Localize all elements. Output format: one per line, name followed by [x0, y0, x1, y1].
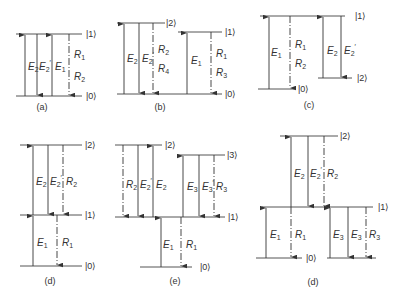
transition-label: E2	[156, 179, 167, 191]
state-ket-label: |1⟩	[225, 27, 236, 37]
transition-label: E1	[37, 237, 48, 249]
state-ket-label: |2⟩	[166, 18, 177, 28]
panel-c: |1⟩|2⟩|0⟩E1R1R2E2E2′(c)	[258, 11, 368, 110]
state-ket-label: |0⟩	[298, 84, 309, 94]
transition-label: E2	[327, 45, 338, 57]
panel-caption: (b)	[155, 102, 166, 112]
panel-d: |2⟩|1⟩|0⟩E2E2′R2E1R1(d)	[20, 140, 96, 286]
energy-level-figure: |1⟩|0⟩E2E2′E1R1R2(a)|2⟩|1⟩|0⟩E2E2′R2R4E1…	[0, 0, 403, 297]
transition-label: E1	[191, 55, 202, 67]
panel-caption: (a)	[37, 102, 48, 112]
transition-label: R1	[295, 39, 306, 51]
transition-label: E2′	[140, 177, 153, 191]
transition-label: R1	[186, 239, 197, 251]
state-ket-label: |1⟩	[85, 210, 96, 220]
panel-caption: (c)	[304, 100, 315, 110]
state-ket-label: |0⟩	[306, 253, 317, 263]
transition-label: R3	[369, 229, 380, 241]
state-ket-label: |0⟩	[200, 262, 211, 272]
panel-f: |2⟩|1⟩|0⟩E2E2′R2E1R1E3E3R3(d)	[256, 131, 389, 287]
transition-label: E2′	[50, 174, 63, 188]
state-ket-label: |0⟩	[85, 261, 96, 271]
transition-label: R3	[216, 67, 227, 79]
transition-label: R3	[216, 181, 227, 193]
transition-label: E3	[333, 229, 344, 241]
state-ket-label: |1⟩	[228, 212, 239, 222]
state-ket-label: |2⟩	[340, 131, 351, 141]
state-ket-label: |1⟩	[86, 29, 97, 39]
transition-label: E2	[294, 168, 305, 180]
transition-label: E2′	[344, 43, 357, 57]
transition-label: E2	[36, 176, 47, 188]
panel-e: |2⟩|3⟩|1⟩|0⟩R2E2′E2E3E3′R3E1R1(e)	[115, 140, 239, 286]
panel-b: |2⟩|1⟩|0⟩E2E2′R2R4E1R1R3(b)	[117, 18, 236, 112]
transition-label: R2	[74, 71, 85, 83]
transition-label: E3	[187, 181, 198, 193]
panel-caption: (d)	[45, 276, 56, 286]
transition-label: R2	[295, 58, 306, 70]
energy-level-diagram-canvas: |1⟩|0⟩E2E2′E1R1R2(a)|2⟩|1⟩|0⟩E2E2′R2R4E1…	[0, 0, 403, 297]
state-ket-label: |1⟩	[378, 202, 389, 212]
transition-label: R2	[158, 44, 169, 56]
transition-label: E3	[351, 229, 362, 241]
transition-label: E3′	[202, 179, 215, 193]
transition-label: R2	[66, 176, 77, 188]
state-ket-label: |0⟩	[225, 89, 236, 99]
transition-label: E1	[271, 47, 282, 59]
transition-label: E1	[270, 229, 281, 241]
transition-label: R4	[158, 63, 169, 75]
state-ket-label: |2⟩	[85, 140, 96, 150]
transition-label: E2	[127, 53, 138, 65]
panel-caption: (d)	[308, 277, 319, 287]
transition-label: R1	[74, 49, 85, 61]
state-ket-label: |3⟩	[227, 150, 238, 160]
transition-label: E2′	[39, 59, 52, 73]
transition-label: E1	[55, 61, 66, 73]
panel-caption: (e)	[170, 276, 181, 286]
transition-label: R2	[126, 179, 137, 191]
state-ket-label: |0⟩	[86, 91, 97, 101]
transition-label: R1	[295, 229, 306, 241]
state-ket-label: |2⟩	[357, 73, 368, 83]
state-ket-label: |1⟩	[355, 11, 366, 21]
panel-a: |1⟩|0⟩E2E2′E1R1R2(a)	[16, 29, 97, 112]
transition-label: R1	[216, 48, 227, 60]
state-ket-label: |2⟩	[165, 140, 176, 150]
transition-label: R1	[62, 237, 73, 249]
transition-label: R2	[327, 168, 338, 180]
transition-label: E2′	[310, 166, 323, 180]
transition-label: E1	[163, 239, 174, 251]
